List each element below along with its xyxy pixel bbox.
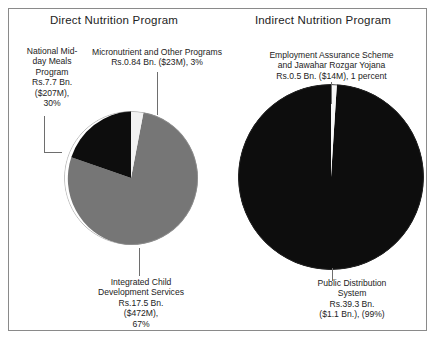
label-employment-assurance-scheme: Employment Assurance Scheme and Jawahar … — [244, 50, 419, 81]
label-public-distribution-system: Public Distribution System Rs.39.3 Bn. (… — [282, 278, 422, 320]
panel-title-indirect: Indirect Nutrition Program — [219, 14, 427, 26]
leader-line-midday-meals-vertical — [44, 116, 45, 153]
leader-line-icds — [139, 248, 140, 276]
label-midday-meals-program: National Mid- day Meals Program Rs.7.7 B… — [15, 46, 89, 108]
label-micronutrient-programs: Micronutrient and Other Programs Rs.0.84… — [87, 47, 227, 68]
pie-chart-indirect — [238, 84, 424, 270]
panel-title-direct: Direct Nutrition Program — [9, 14, 219, 26]
panel-direct-nutrition: Direct Nutrition Program National Mid- d… — [9, 0, 219, 345]
leader-line-employment-assurance — [331, 82, 332, 104]
figure-canvas: Direct Nutrition Program National Mid- d… — [0, 0, 435, 345]
leader-line-micronutrient — [157, 72, 158, 115]
label-integrated-child-development-services: Integrated Child Development Services Rs… — [67, 277, 215, 329]
leader-line-midday-meals-horizontal — [44, 152, 62, 153]
pie-chart-direct — [64, 111, 198, 245]
